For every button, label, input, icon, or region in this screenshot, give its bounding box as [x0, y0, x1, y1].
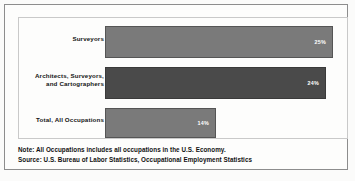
plot-area-frame: Surveyors 25% Architects, Surveyors, and…: [18, 17, 348, 139]
bars-area: Surveyors 25% Architects, Surveyors, and…: [19, 18, 347, 138]
bar-row: Surveyors 25%: [19, 26, 347, 58]
category-label-line1: Total, All Occupations: [36, 116, 104, 123]
figure-outer-frame: Surveyors 25% Architects, Surveyors, and…: [4, 4, 348, 170]
footnote-source: Source: U.S. Bureau of Labor Statistics,…: [18, 155, 344, 165]
category-label-architects-surveyors-cartographers: Architects, Surveyors, and Cartographers: [0, 72, 104, 89]
bar-value-total-all-occupations: 14%: [198, 120, 215, 126]
bar-surveyors: 25%: [105, 26, 333, 58]
bar-value-surveyors: 25%: [315, 39, 332, 45]
footnote-note: Note: All Occupations includes all occup…: [18, 145, 344, 155]
category-label-line1: Architects, Surveyors,: [0, 72, 104, 80]
category-label-line2: and Cartographers: [0, 80, 104, 88]
bar-row: Total, All Occupations 14%: [19, 108, 347, 138]
chart-figure: Surveyors 25% Architects, Surveyors, and…: [0, 0, 355, 181]
category-label-surveyors: Surveyors: [0, 35, 104, 43]
footnotes: Note: All Occupations includes all occup…: [18, 145, 344, 165]
bar-total-all-occupations: 14%: [105, 108, 216, 138]
bar-row: Architects, Surveyors, and Cartographers…: [19, 67, 347, 99]
category-label-total-all-occupations: Total, All Occupations: [0, 116, 104, 124]
bar-value-architects-surveyors-cartographers: 24%: [308, 80, 325, 86]
bar-architects-surveyors-cartographers: 24%: [105, 67, 326, 99]
category-label-line1: Surveyors: [72, 35, 104, 42]
